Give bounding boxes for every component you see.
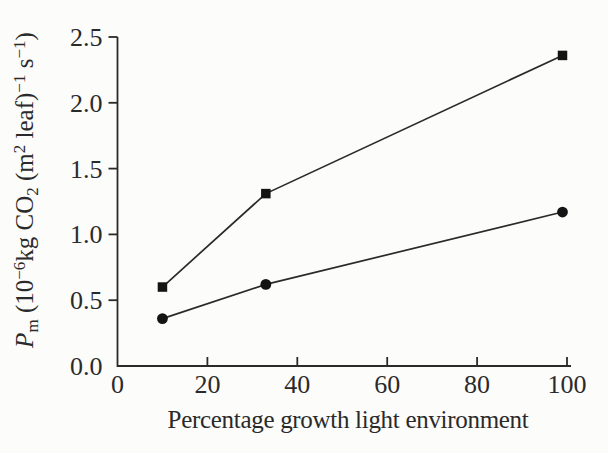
y-axis-title-group: Pm (10−6kg CO2 (m2 leaf)−1 s−1) bbox=[10, 32, 42, 349]
x-tick-label: 80 bbox=[464, 370, 490, 399]
square-marker bbox=[261, 189, 271, 199]
y-axis-title: Pm (10−6kg CO2 (m2 leaf)−1 s−1) bbox=[10, 32, 42, 349]
square-series-line bbox=[162, 55, 562, 287]
y-tick-label: 1.5 bbox=[70, 155, 103, 184]
y-tick-label: 1.0 bbox=[70, 220, 103, 249]
x-tick-label: 40 bbox=[284, 370, 310, 399]
x-axis-title: Percentage growth light environment bbox=[168, 406, 529, 433]
square-series bbox=[158, 51, 568, 292]
x-tick-label: 0 bbox=[111, 370, 124, 399]
circle-series bbox=[157, 207, 568, 324]
x-axis: 020406080100 bbox=[111, 357, 587, 399]
square-marker bbox=[558, 51, 568, 61]
axes bbox=[118, 37, 572, 366]
y-tick-label: 0.5 bbox=[70, 286, 103, 315]
x-tick-label: 20 bbox=[194, 370, 220, 399]
axis-frame bbox=[118, 37, 572, 366]
y-tick-label: 2.5 bbox=[70, 23, 103, 52]
x-axis-title-group: Percentage growth light environment bbox=[168, 406, 529, 433]
x-tick-label: 100 bbox=[548, 370, 587, 399]
square-marker bbox=[158, 282, 168, 292]
y-axis: 0.00.51.01.52.02.5 bbox=[70, 23, 118, 381]
circle-marker bbox=[157, 313, 168, 324]
figure: 0.00.51.01.52.02.5020406080100Percentage… bbox=[0, 0, 608, 453]
x-tick-label: 60 bbox=[374, 370, 400, 399]
circle-marker bbox=[557, 207, 568, 218]
y-tick-label: 0.0 bbox=[70, 352, 103, 381]
circle-series-line bbox=[162, 212, 562, 319]
y-tick-label: 2.0 bbox=[70, 89, 103, 118]
circle-marker bbox=[260, 279, 271, 290]
chart-svg: 0.00.51.01.52.02.5020406080100Percentage… bbox=[0, 0, 608, 453]
